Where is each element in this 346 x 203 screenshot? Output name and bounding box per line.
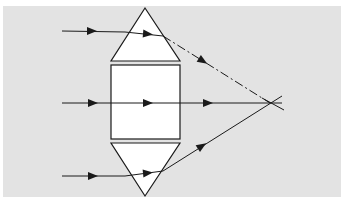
ray-diagram bbox=[0, 0, 346, 203]
